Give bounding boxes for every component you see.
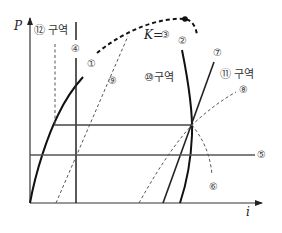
isentropic-line-dashed xyxy=(139,92,236,203)
curve-8-label: ⑧ xyxy=(239,85,248,95)
critical-point-dot xyxy=(182,16,188,22)
curve-7-label: ⑦ xyxy=(213,48,222,58)
critical-point-ref: ③ xyxy=(161,30,170,40)
curve-4-label: ④ xyxy=(71,44,80,54)
curve-5-label: ⑤ xyxy=(257,150,266,160)
curve-2-label: ② xyxy=(178,36,187,46)
isochoric-line-dashed xyxy=(192,125,212,175)
saturated-liquid-line xyxy=(30,77,83,203)
curve-6-label: ⑥ xyxy=(209,182,218,192)
x-axis-label: i xyxy=(246,206,250,218)
curve-1-label: ① xyxy=(87,59,96,69)
y-axis-label: P xyxy=(14,20,22,32)
region-10-label: ⑩구역 xyxy=(144,72,174,83)
curve-9-label: ⑨ xyxy=(108,76,117,86)
region-11-label: ⑪ 구역 xyxy=(220,69,255,80)
region-12-label: ⑫ 구역 xyxy=(34,25,69,36)
